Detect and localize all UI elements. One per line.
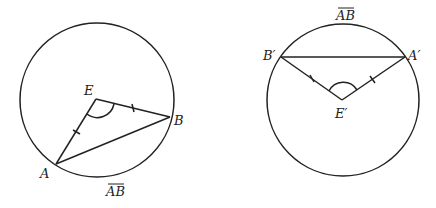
label-E-prime: E′ xyxy=(334,106,347,121)
arc-label-AB: AB xyxy=(105,184,125,199)
label-E: E xyxy=(83,83,94,98)
label-A-prime: A′ xyxy=(407,48,420,63)
label-A: A xyxy=(39,166,49,181)
congruent-arcs-diagram: E A B AB E′ B′ A′ AB xyxy=(0,0,436,208)
arc-label-AB-top: AB xyxy=(335,8,355,23)
left-figure: E A B AB xyxy=(20,23,184,199)
label-B-prime: B′ xyxy=(262,48,276,63)
label-B: B xyxy=(173,113,184,128)
angle-mark-A-prime-E-prime-B-prime xyxy=(329,82,357,91)
chord-AB xyxy=(56,117,170,164)
segment-E-prime-A-prime xyxy=(342,57,405,100)
tick-mark-EB xyxy=(132,104,134,112)
right-figure: E′ B′ A′ AB xyxy=(262,8,420,176)
